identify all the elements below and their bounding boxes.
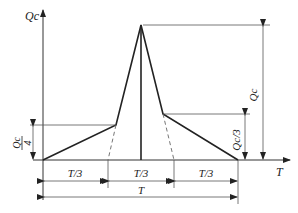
qc4-denominator: 4 <box>22 141 33 146</box>
qc4-numerator: Qc <box>11 137 22 149</box>
dimension-qc-over-4: Qc 4 <box>11 126 33 159</box>
segment-3-label: T/3 <box>199 167 214 179</box>
load-diagram: Qc T Qc 4 <box>0 0 298 213</box>
dimension-qc-peak: Qc <box>247 26 263 159</box>
dimension-total: T <box>44 184 237 197</box>
dimension-segments: T/3 T/3 T/3 <box>44 167 237 181</box>
x-axis-label: T <box>276 165 284 179</box>
segment-2-label: T/3 <box>134 167 149 179</box>
load-curve <box>43 25 238 160</box>
y-axis-label: Qc <box>25 9 40 23</box>
total-label: T <box>138 184 145 196</box>
qc-peak-label: Qc <box>247 88 259 101</box>
y-axis: Qc <box>25 9 43 200</box>
reference-lines <box>30 25 270 125</box>
dimension-qc-over-3: Qc/3 <box>230 115 245 159</box>
segment-1-label: T/3 <box>68 167 83 179</box>
qc3-label: Qc/3 <box>230 129 242 151</box>
